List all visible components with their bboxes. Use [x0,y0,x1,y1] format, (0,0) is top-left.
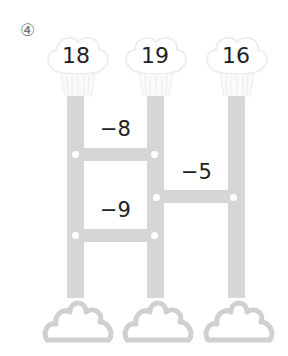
rung-label-3: −9 [100,200,131,221]
ladder-rung-3 [75,229,155,242]
ladder-rung-2 [155,190,237,203]
joint-dot [72,232,79,239]
joint-dot [151,232,158,239]
joint-dot [153,194,160,201]
joint-dot [151,151,158,158]
top-value-2: 19 [125,45,185,67]
rung-label-2: −5 [181,162,212,183]
top-value-1: 18 [46,45,106,67]
ladder-pole-1 [67,96,84,298]
bottom-cloud-1[interactable] [42,290,114,346]
problem-number: ④ [20,22,35,39]
joint-dot [72,151,79,158]
rung-label-1: −8 [100,119,131,140]
bottom-cloud-3[interactable] [203,290,275,346]
joint-dot [230,194,237,201]
top-value-3: 16 [206,45,266,67]
ladder-rung-1 [75,148,155,161]
bottom-cloud-2[interactable] [122,290,194,346]
